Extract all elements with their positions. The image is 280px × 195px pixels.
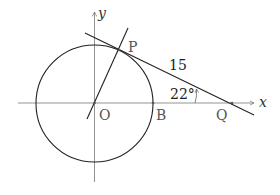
line-op xyxy=(87,28,128,119)
y-axis-label: y xyxy=(98,6,106,20)
label-p: P xyxy=(128,40,137,54)
label-o: O xyxy=(99,108,110,122)
point-o xyxy=(93,102,96,105)
geometry-diagram xyxy=(0,0,280,195)
point-b xyxy=(152,102,155,105)
point-p xyxy=(118,49,121,52)
label-q: Q xyxy=(216,108,227,122)
length-label-15: 15 xyxy=(169,58,187,72)
angle-label-22: 22° xyxy=(170,87,195,101)
label-b: B xyxy=(156,108,166,122)
point-q xyxy=(231,102,234,105)
angle-arc xyxy=(195,89,197,103)
x-axis-label: x xyxy=(259,95,267,109)
